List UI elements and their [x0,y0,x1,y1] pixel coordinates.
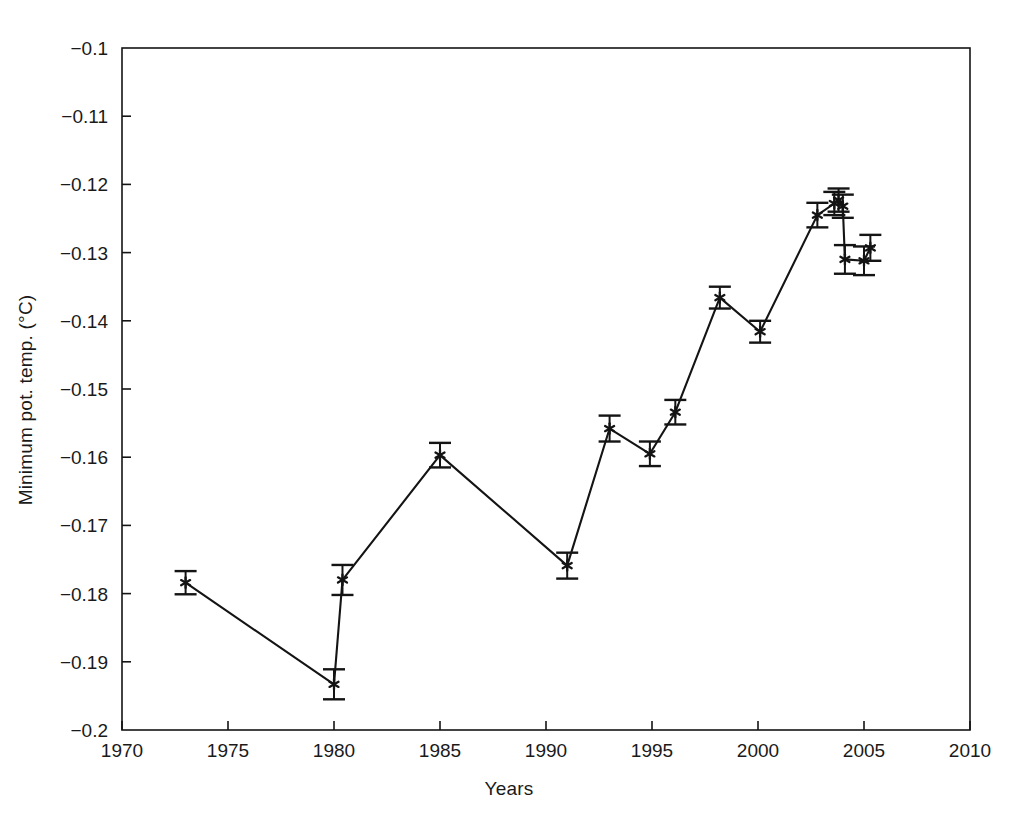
x-tick-label: 1985 [419,740,461,761]
y-tick-label: −0.2 [70,720,108,741]
plot-frame [122,48,970,730]
y-tick-label: −0.14 [60,311,109,332]
x-tick-label: 2010 [949,740,991,761]
data-point-marker [866,243,875,253]
chart-figure: 197019751980198519901995200020052010−0.2… [0,0,1018,828]
x-tick-label: 2005 [843,740,885,761]
x-tick-label: 1980 [313,740,355,761]
y-tick-label: −0.18 [60,584,108,605]
series-line [186,200,871,684]
y-tick-label: −0.11 [61,106,108,127]
y-tick-label: −0.17 [60,515,108,536]
x-tick-label: 1990 [525,740,567,761]
x-tick-label: 2000 [737,740,779,761]
data-point-marker [605,423,614,433]
y-tick-label: −0.12 [60,174,108,195]
x-tick-label: 1975 [207,740,249,761]
y-tick-label: −0.1 [70,38,108,59]
y-tick-label: −0.15 [60,379,108,400]
y-axis-title: Minimum pot. temp. (°C) [15,270,37,530]
chart-canvas: 197019751980198519901995200020052010−0.2… [0,0,1018,828]
x-axis-title: Years [0,778,1018,800]
data-point-marker [813,210,822,220]
y-tick-label: −0.16 [60,447,108,468]
x-tick-label: 1970 [101,740,143,761]
data-point-marker [330,679,339,689]
data-point-marker [181,577,190,587]
data-series [175,188,882,699]
y-tick-label: −0.19 [60,652,108,673]
x-tick-label: 1995 [631,740,673,761]
y-tick-label: −0.13 [60,243,108,264]
y-axis: −0.2−0.19−0.18−0.17−0.16−0.15−0.14−0.13−… [60,38,131,741]
x-axis: 197019751980198519901995200020052010 [101,721,991,761]
